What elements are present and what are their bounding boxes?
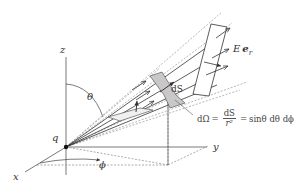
field-label: Eer xyxy=(233,44,252,57)
charge-point xyxy=(64,145,68,149)
diagram-graphics xyxy=(0,0,295,185)
charge-label: q xyxy=(52,133,58,143)
small-patch xyxy=(108,108,153,121)
y-axis-label: y xyxy=(213,142,219,152)
solid-angle-diagram: z y x q θ ϕ dS Eer dΩ = dS r² = sinθ dθ … xyxy=(0,0,295,185)
formula-lhs: dΩ xyxy=(197,114,210,124)
ds-label: dS xyxy=(171,85,183,94)
phi-arc xyxy=(40,159,100,163)
formula-denominator: r² xyxy=(226,119,233,128)
x-axis xyxy=(25,147,66,172)
formula-rhs: sinθ dθ dϕ xyxy=(249,114,294,124)
projection-lines xyxy=(37,100,208,165)
formula-fraction: dS r² xyxy=(223,109,236,128)
far-plate xyxy=(193,24,227,96)
formula-eq2: = xyxy=(240,114,247,124)
theta-arc xyxy=(66,84,103,117)
z-axis-label: z xyxy=(60,45,65,55)
field-E-text: E xyxy=(233,43,240,54)
formula-eq1: = xyxy=(212,114,219,124)
field-unit-subscript: r xyxy=(249,49,252,57)
phi-label: ϕ xyxy=(99,160,106,170)
solid-angle-formula: dΩ = dS r² = sinθ dθ dϕ xyxy=(197,109,294,128)
x-axis-label: x xyxy=(13,172,19,182)
theta-label: θ xyxy=(87,92,93,102)
